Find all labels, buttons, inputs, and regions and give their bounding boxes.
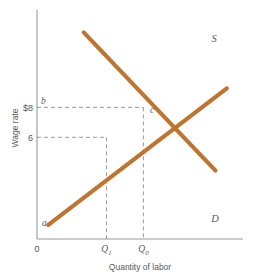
supply-curve-label: S	[211, 33, 217, 44]
y-tick-label-8: $8	[23, 103, 33, 113]
demand-curve-label: D	[210, 213, 219, 224]
supply-demand-chart: S D a b c $8 6 0 Q1 Q0 Wage rate Quantit…	[0, 0, 254, 278]
x-tick-q0-subscript: 0	[145, 249, 149, 256]
x-tick-q1-subscript: 1	[108, 249, 111, 256]
point-a-label: a	[42, 218, 47, 228]
point-b-label: b	[41, 96, 46, 106]
x-tick-label-q0: Q0	[138, 244, 149, 256]
x-tick-label-origin: 0	[34, 244, 39, 254]
x-tick-label-q1: Q1	[101, 244, 111, 256]
x-axis-title: Quantity of labor	[109, 262, 172, 272]
y-tick-label-6: 6	[28, 133, 33, 143]
y-axis-title: Wage rate	[10, 108, 20, 147]
